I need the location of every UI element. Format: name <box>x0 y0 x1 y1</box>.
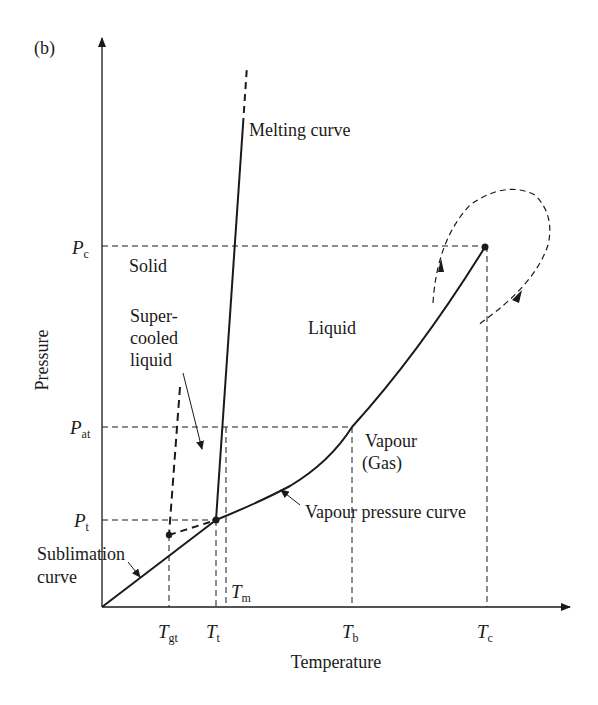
region-vapour-label-1: Vapour <box>365 431 417 451</box>
phase-diagram: (b) Pressure Temperature Melting cu <box>0 0 598 705</box>
region-vapour-label-2: (Gas) <box>362 453 402 474</box>
x-axis-label: Temperature <box>291 652 382 672</box>
sublimation-pointer-arrow <box>128 562 140 577</box>
supercooled-pointer-arrow <box>183 373 202 449</box>
y-axis-label: Pressure <box>32 330 52 391</box>
x-tick-tc: Tc <box>477 621 493 645</box>
x-tick-tb: Tb <box>342 621 359 645</box>
vapour-pressure-curve-label: Vapour pressure curve <box>305 502 466 522</box>
x-tick-tgt: Tgt <box>158 621 179 645</box>
panel-label: (b) <box>34 38 55 59</box>
vapour-curve-pointer-arrow <box>281 490 300 505</box>
melting-curve <box>216 125 243 520</box>
x-tick-tt: Tt <box>206 621 221 645</box>
supercooled-liquid-line <box>169 387 180 535</box>
critical-point-marker <box>482 244 489 251</box>
y-tick-pc: Pc <box>71 237 89 261</box>
melting-curve-extension <box>243 66 247 125</box>
loop-arrow-left-icon <box>438 258 444 272</box>
region-solid-label: Solid <box>129 256 167 276</box>
y-tick-pt: Pt <box>73 510 90 534</box>
region-liquid-label: Liquid <box>308 318 356 338</box>
y-tick-pat: Pat <box>69 417 91 441</box>
triple-point-marker <box>213 517 220 524</box>
sublimation-curve-label-1: Sublimation <box>37 544 125 564</box>
x-tick-tm: Tm <box>231 581 252 605</box>
melting-curve-label: Melting curve <box>249 120 350 140</box>
region-supercooled-label-2: cooled <box>130 328 178 348</box>
tgt-point-marker <box>166 532 172 538</box>
sublimation-curve-label-2: curve <box>37 567 77 587</box>
reference-lines <box>102 246 487 607</box>
vapour-pressure-curve <box>216 247 485 520</box>
supercritical-loop <box>433 189 550 325</box>
region-supercooled-label-1: Super- <box>130 306 178 326</box>
region-supercooled-label-3: liquid <box>130 350 172 370</box>
